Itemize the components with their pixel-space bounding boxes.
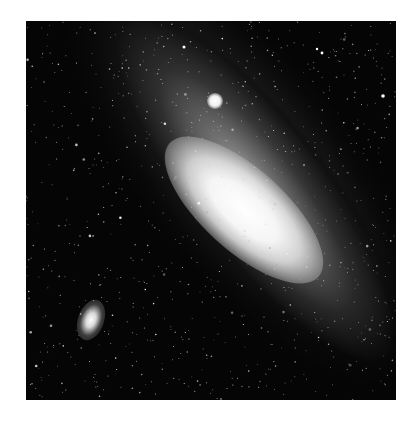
galaxy-disk bbox=[79, 21, 396, 393]
galaxy-photograph bbox=[26, 21, 396, 400]
satellite-galaxy-upper bbox=[207, 93, 223, 109]
satellite-galaxy-lower-left bbox=[72, 296, 111, 344]
galaxy-dust-lane bbox=[104, 21, 396, 374]
star-field bbox=[26, 21, 396, 400]
galaxy-outer-halo bbox=[26, 21, 396, 400]
galaxy-core bbox=[142, 113, 345, 308]
